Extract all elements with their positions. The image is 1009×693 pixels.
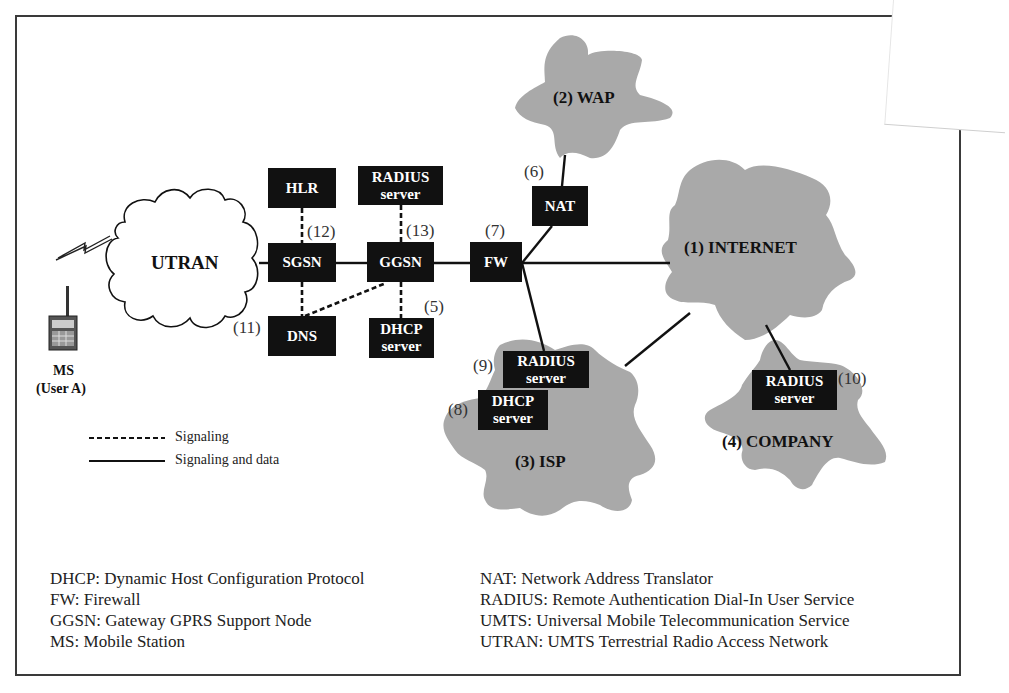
ggsn-node-label: GGSN (379, 254, 422, 271)
sgsn-node[interactable]: SGSN (268, 243, 336, 282)
step-8-label: (8) (448, 400, 468, 420)
step-13-label: (13) (406, 221, 434, 241)
sgsn-node-label: SGSN (282, 254, 321, 271)
abbr-fw: FW: Firewall (50, 589, 364, 610)
abbr-ms: MS: Mobile Station (50, 631, 364, 652)
radius-server-isp-node[interactable]: RADIUS server (503, 351, 589, 388)
hlr-node-label: HLR (286, 180, 319, 197)
step-12-label: (12) (307, 222, 335, 242)
dhcp-server-ggsn-label-1: DHCP (380, 321, 423, 338)
radius-server-ggsn-label-1: RADIUS (372, 169, 430, 186)
radius-server-ggsn-label-2: server (381, 186, 421, 203)
radius-server-isp-label-2: server (526, 370, 566, 387)
nat-node[interactable]: NAT (532, 186, 588, 226)
radio-link-icon (56, 236, 112, 260)
dhcp-server-ggsn-node[interactable]: DHCP server (369, 318, 434, 358)
internet-label: (1) INTERNET (684, 238, 797, 258)
abbr-nat: NAT: Network Address Translator (480, 568, 854, 589)
utran-label: UTRAN (151, 252, 219, 274)
ms-user-label: (User A) (36, 381, 86, 397)
dhcp-server-ggsn-label-2: server (382, 338, 422, 355)
abbreviations-right: NAT: Network Address Translator RADIUS: … (480, 568, 854, 652)
ggsn-node[interactable]: GGSN (367, 242, 434, 282)
isp-label: (3) ISP (515, 452, 566, 472)
radius-server-company-label-1: RADIUS (766, 373, 824, 390)
step-6-label: (6) (524, 162, 544, 182)
mobile-phone-icon (49, 286, 77, 350)
radius-server-company-node[interactable]: RADIUS server (752, 370, 837, 410)
legend-signaling-data-label: Signaling and data (175, 452, 279, 468)
step-11-label: (11) (233, 318, 261, 338)
legend-signaling-label: Signaling (175, 429, 229, 445)
company-label: (4) COMPANY (722, 432, 834, 452)
hlr-node[interactable]: HLR (268, 168, 336, 208)
abbr-ggsn: GGSN: Gateway GPRS Support Node (50, 610, 364, 631)
step-5-label: (5) (424, 297, 444, 317)
radius-server-isp-label-1: RADIUS (517, 353, 575, 370)
dns-node-label: DNS (287, 328, 317, 345)
dhcp-server-isp-label-1: DHCP (492, 393, 535, 410)
company-cloud-shape (705, 340, 886, 489)
abbr-dhcp: DHCP: Dynamic Host Configuration Protoco… (50, 568, 364, 589)
step-9-label: (9) (473, 356, 493, 376)
ms-label: MS (53, 363, 74, 379)
fw-node[interactable]: FW (470, 242, 522, 282)
dns-node[interactable]: DNS (268, 316, 336, 356)
fw-node-label: FW (484, 254, 508, 271)
step-10-label: (10) (838, 369, 866, 389)
abbr-radius: RADIUS: Remote Authentication Dial-In Us… (480, 589, 854, 610)
abbr-umts: UMTS: Universal Mobile Telecommunication… (480, 610, 854, 631)
radius-server-company-label-2: server (775, 390, 815, 407)
dhcp-server-isp-label-2: server (493, 410, 533, 427)
step-7-label: (7) (485, 221, 505, 241)
wap-label: (2) WAP (553, 88, 615, 108)
paper-overlay (884, 0, 1009, 133)
dhcp-server-isp-node[interactable]: DHCP server (478, 390, 548, 430)
nat-node-label: NAT (545, 198, 576, 215)
radius-server-ggsn-node[interactable]: RADIUS server (358, 166, 443, 205)
abbreviations-left: DHCP: Dynamic Host Configuration Protoco… (50, 568, 364, 652)
abbr-utran: UTRAN: UMTS Terrestrial Radio Access Net… (480, 631, 854, 652)
